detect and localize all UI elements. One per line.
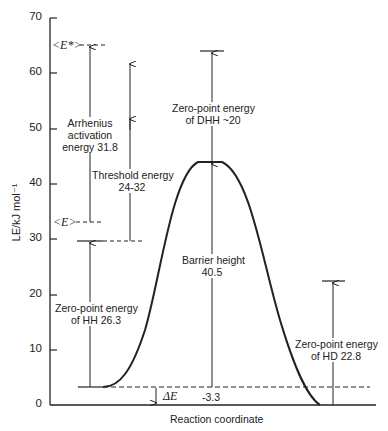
y-tick-50: 50	[20, 121, 42, 133]
y-tick-60: 60	[20, 65, 42, 77]
barrier-label: Barrier height 40.5	[182, 254, 242, 278]
hd-zpe-label: Zero-point energy of HD 22.8	[295, 338, 377, 362]
y-tick-0: 0	[20, 397, 42, 409]
y-tick-10: 10	[20, 342, 42, 354]
dhh-zpe-label: Zero-point energy of DHH ~20	[172, 102, 254, 126]
hh-zpe-label: Zero-point energy of HH 26.3	[55, 302, 137, 326]
arrhenius-label: Arrhenius activation energy 31.8	[62, 117, 118, 153]
y-axis-label: LE/kJ mol⁻¹	[10, 184, 23, 242]
delta-e-value: -3.3	[202, 391, 220, 403]
y-tick-70: 70	[20, 10, 42, 22]
y-ticks	[50, 18, 57, 350]
e-star-label: <E*>	[52, 39, 82, 51]
e-avg-label: <E>	[53, 216, 77, 228]
y-tick-20: 20	[20, 287, 42, 299]
delta-e-label: ΔE	[163, 390, 177, 402]
threshold-label: Threshold energy 24-32	[92, 169, 172, 193]
x-axis-label: Reaction coordinate	[170, 413, 263, 425]
